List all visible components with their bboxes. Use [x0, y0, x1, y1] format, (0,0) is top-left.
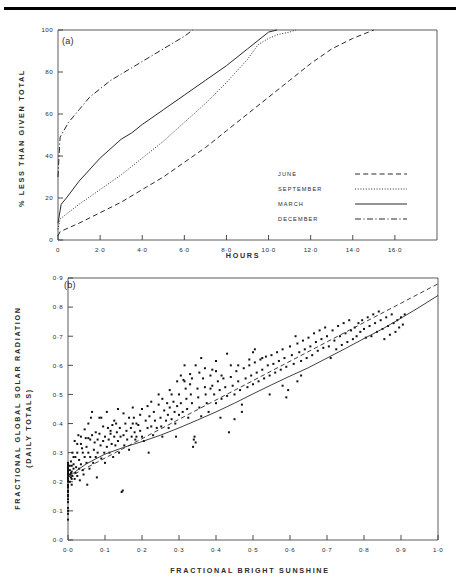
scatter-point	[87, 437, 89, 439]
y-tick-label: 0·6	[53, 362, 63, 369]
scatter-point	[221, 398, 223, 400]
scatter-point	[341, 344, 343, 346]
scatter-point	[337, 325, 339, 327]
scatter-point	[73, 456, 75, 458]
fit-line-linear-fit	[68, 284, 438, 478]
scatter-point	[274, 372, 276, 374]
scatter-point	[202, 377, 204, 379]
scatter-point	[80, 443, 82, 445]
scatter-point	[92, 462, 94, 464]
scatter-point	[315, 341, 317, 343]
scatter-point	[237, 380, 239, 382]
scatter-point	[132, 423, 134, 425]
scatter-point	[189, 383, 191, 385]
scatter-point	[87, 452, 89, 454]
scatter-point	[213, 393, 215, 395]
scatter-point	[402, 324, 404, 326]
scatter-point	[160, 425, 162, 427]
panel-b-ylabel-line1: FRACTIONAL GLOBAL SOLAR RADIATION	[13, 306, 22, 509]
scatter-point	[111, 443, 113, 445]
x-tick-label: 0·9	[396, 546, 406, 553]
x-tick-label: 0	[56, 246, 60, 253]
scatter-point	[89, 439, 91, 441]
scatter-point	[71, 465, 73, 467]
scatter-point	[333, 340, 335, 342]
scatter-point	[300, 375, 302, 377]
figure-root: 02040608010002·04·06·08·010·012·014·016·…	[0, 0, 465, 584]
scatter-point	[75, 466, 77, 468]
scatter-point	[259, 359, 261, 361]
scatter-point	[108, 439, 110, 441]
scatter-point	[291, 354, 293, 356]
scatter-point	[111, 424, 113, 426]
scatter-point	[91, 434, 93, 436]
panel-a-frame	[58, 30, 437, 240]
scatter-point	[147, 427, 149, 429]
scatter-point	[91, 411, 93, 413]
scatter-point	[158, 404, 160, 406]
scatter-point	[84, 428, 86, 430]
scatter-point	[71, 484, 73, 486]
scatter-point	[204, 386, 206, 388]
scatter-point	[70, 460, 72, 462]
scatter-point	[95, 431, 97, 433]
scatter-point	[298, 351, 300, 353]
y-tick-label: 0	[49, 236, 53, 243]
scatter-point	[71, 478, 73, 480]
scatter-point	[241, 404, 243, 406]
scatter-point	[293, 363, 295, 365]
scatter-point	[234, 393, 236, 395]
scatter-point	[102, 425, 104, 427]
scatter-point	[383, 338, 385, 340]
legend-label-march: MARCH	[278, 201, 304, 207]
scatter-point	[385, 316, 387, 318]
scatter-point	[175, 436, 177, 438]
scatter-point	[195, 441, 197, 443]
scatter-point	[198, 372, 200, 374]
scatter-point	[178, 414, 180, 416]
scatter-point	[76, 475, 78, 477]
scatter-point	[261, 369, 263, 371]
y-tick-label: 80	[45, 68, 53, 75]
scatter-point	[287, 389, 289, 391]
scatter-point	[221, 375, 223, 377]
scatter-point	[243, 367, 245, 369]
y-tick-label: 0·2	[53, 478, 63, 485]
scatter-point	[184, 364, 186, 366]
scatter-point	[248, 364, 250, 366]
scatter-point	[271, 354, 273, 356]
scatter-point	[182, 411, 184, 413]
scatter-point	[187, 417, 189, 419]
scatter-point	[195, 364, 197, 366]
scatter-point	[206, 402, 208, 404]
scatter-point	[122, 490, 124, 492]
scatter-point	[112, 456, 114, 458]
scatter-point	[276, 351, 278, 353]
scatter-point	[309, 345, 311, 347]
scatter-point	[211, 385, 213, 387]
scatter-point	[172, 401, 174, 403]
scatter-point	[311, 354, 313, 356]
scatter-point	[185, 398, 187, 400]
scatter-point	[84, 456, 86, 458]
top-rule	[4, 7, 456, 10]
scatter-point	[74, 478, 76, 480]
scatter-point	[352, 338, 354, 340]
scatter-point	[241, 411, 243, 413]
y-tick-label: 60	[45, 110, 53, 117]
scatter-point	[167, 414, 169, 416]
scatter-point	[71, 452, 73, 454]
scatter-point	[132, 407, 134, 409]
scatter-point	[359, 331, 361, 333]
scatter-point	[185, 388, 187, 390]
scatter-point	[200, 415, 202, 417]
scatter-point	[296, 380, 298, 382]
scatter-point	[161, 436, 163, 438]
y-tick-label: 0·9	[53, 274, 63, 281]
panel-a-plot: 02040608010002·04·06·08·010·012·014·016·…	[0, 12, 465, 264]
x-tick-label: 0·3	[174, 546, 184, 553]
scatter-point	[104, 436, 106, 438]
scatter-point	[356, 335, 358, 337]
scatter-point	[380, 319, 382, 321]
scatter-point	[189, 373, 191, 375]
